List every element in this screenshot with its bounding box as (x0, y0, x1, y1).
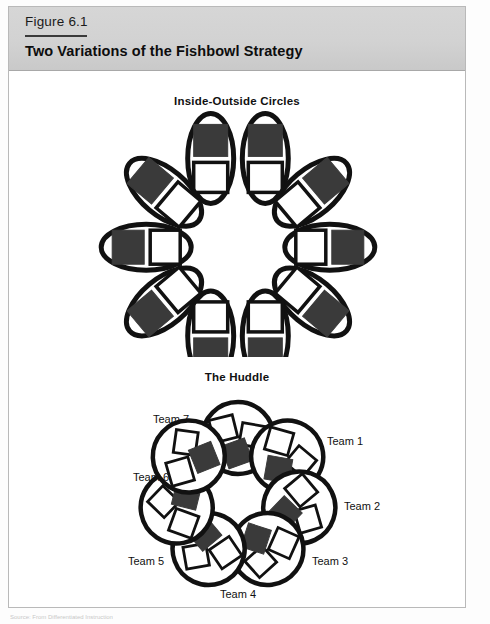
team-label-1: Team 1 (327, 435, 363, 447)
team-label-6: Team 6 (133, 471, 169, 483)
figure-frame: Figure 6.1 Two Variations of the Fishbow… (8, 6, 466, 608)
figure-divider-rule (25, 35, 87, 37)
team-label-2: Team 2 (344, 500, 380, 512)
section-heading-huddle: The Huddle (9, 371, 465, 383)
figure-title: Two Variations of the Fishbowl Strategy (25, 43, 303, 59)
figure-header-band: Figure 6.1 Two Variations of the Fishbow… (9, 7, 465, 71)
team-label-5: Team 5 (128, 555, 164, 567)
source-caption: Source: From Differentiated Instruction (10, 612, 456, 622)
huddle-ring (127, 402, 348, 600)
pair-6 (242, 291, 288, 357)
section-heading-inside-outside: Inside-Outside Circles (9, 95, 465, 107)
pair-9 (101, 224, 191, 270)
pair-4 (285, 224, 375, 270)
team-label-4: Team 4 (220, 588, 256, 600)
inside-outside-circles-diagram (9, 107, 467, 357)
team-label-3: Team 3 (312, 555, 348, 567)
figure-number: Figure 6.1 (25, 14, 88, 29)
huddle-diagram: Team 1 Team 2 Team 3 Team 4 Team 5 Team … (9, 393, 467, 609)
inside-outside-ring (101, 113, 375, 357)
team-label-7: Team 7 (153, 413, 189, 425)
